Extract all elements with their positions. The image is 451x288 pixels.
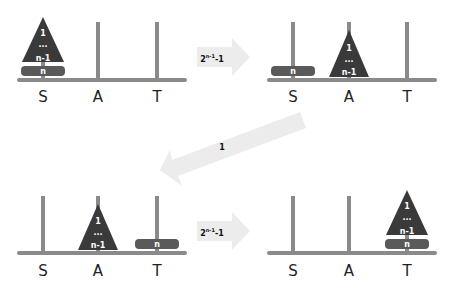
panel-final: 1 ... n-1 n S A T (267, 190, 437, 280)
peg-a (347, 196, 351, 254)
svg-text:A: A (344, 88, 355, 106)
peg-t (155, 22, 159, 80)
svg-text:...: ... (38, 40, 47, 49)
svg-text:T: T (151, 262, 162, 280)
base (267, 78, 437, 82)
svg-text:1: 1 (95, 217, 101, 226)
peg-t (405, 22, 409, 80)
arrow-step-1: 2n-1-1 (197, 38, 250, 76)
arrow-step-2: 1 (160, 112, 306, 186)
svg-text:T: T (151, 88, 162, 106)
svg-text:A: A (93, 88, 104, 106)
svg-text:...: ... (344, 55, 353, 64)
svg-text:n: n (404, 240, 410, 249)
panel-after-step-1: n 1 ... n-1 S A T (267, 22, 437, 106)
svg-text:1: 1 (404, 202, 410, 211)
svg-text:T: T (401, 88, 412, 106)
arrow-step-3: 2n-1-1 (197, 212, 250, 250)
peg-s (291, 196, 295, 254)
base (17, 78, 187, 82)
svg-text:n-1: n-1 (400, 227, 415, 236)
peg-a (96, 22, 100, 80)
svg-text:S: S (288, 88, 298, 106)
svg-text:S: S (38, 88, 48, 106)
svg-text:A: A (344, 262, 355, 280)
svg-text:n: n (154, 240, 160, 249)
panel-after-step-2: 1 ... n-1 n S A T (17, 196, 187, 280)
svg-text:1: 1 (40, 29, 46, 38)
svg-text:...: ... (402, 213, 411, 222)
base (17, 251, 187, 255)
svg-text:n-1: n-1 (342, 68, 357, 77)
svg-text:T: T (401, 262, 412, 280)
svg-text:n: n (290, 67, 296, 76)
svg-text:A: A (93, 262, 104, 280)
svg-text:n-1: n-1 (91, 241, 106, 250)
tower-of-hanoi-diagram: 2n-1-1 1 2n-1-1 1 ... n-1 n S A T n (0, 0, 451, 288)
svg-text:S: S (38, 262, 48, 280)
svg-text:1: 1 (346, 44, 352, 53)
arrow-step-2-label: 1 (219, 143, 225, 152)
svg-text:n: n (40, 67, 46, 76)
base (267, 251, 437, 255)
panel-initial: 1 ... n-1 n S A T (17, 17, 187, 106)
peg-s (41, 196, 45, 254)
svg-text:...: ... (93, 228, 102, 237)
svg-text:n-1: n-1 (36, 54, 51, 63)
svg-text:S: S (288, 262, 298, 280)
